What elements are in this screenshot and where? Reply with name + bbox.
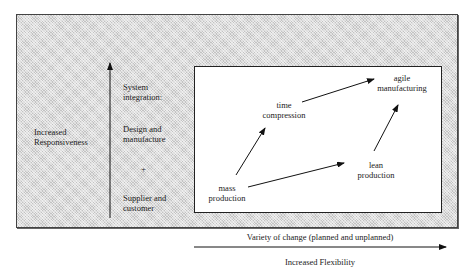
arrow-mass-to-time [236,128,265,175]
arrows-layer [0,0,471,274]
arrow-time-to-agile [302,79,374,102]
arrow-lean-to-agile [374,105,398,151]
arrow-mass-to-lean [248,163,344,187]
